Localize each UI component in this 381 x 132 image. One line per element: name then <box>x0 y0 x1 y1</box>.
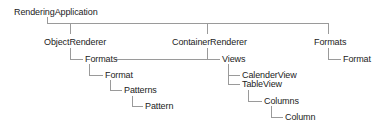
node-pattern: Pattern <box>145 101 173 111</box>
node-table-view: TableView <box>242 79 282 89</box>
node-column: Column <box>285 112 315 122</box>
node-rendering-application: RenderingApplication <box>14 7 98 17</box>
node-format-right: Format <box>343 54 371 64</box>
node-formats-right: Formats <box>314 37 346 47</box>
node-views: Views <box>222 54 245 64</box>
node-patterns: Patterns <box>124 85 157 95</box>
node-object-renderer: ObjectRenderer <box>44 37 106 47</box>
tree-diagram: RenderingApplication ObjectRenderer Cont… <box>0 0 381 132</box>
node-formats-left: Formats <box>85 54 117 64</box>
connector-lines <box>0 0 381 132</box>
node-format-left: Format <box>105 70 133 80</box>
node-container-renderer: ContainerRenderer <box>172 37 247 47</box>
node-columns: Columns <box>264 96 299 106</box>
